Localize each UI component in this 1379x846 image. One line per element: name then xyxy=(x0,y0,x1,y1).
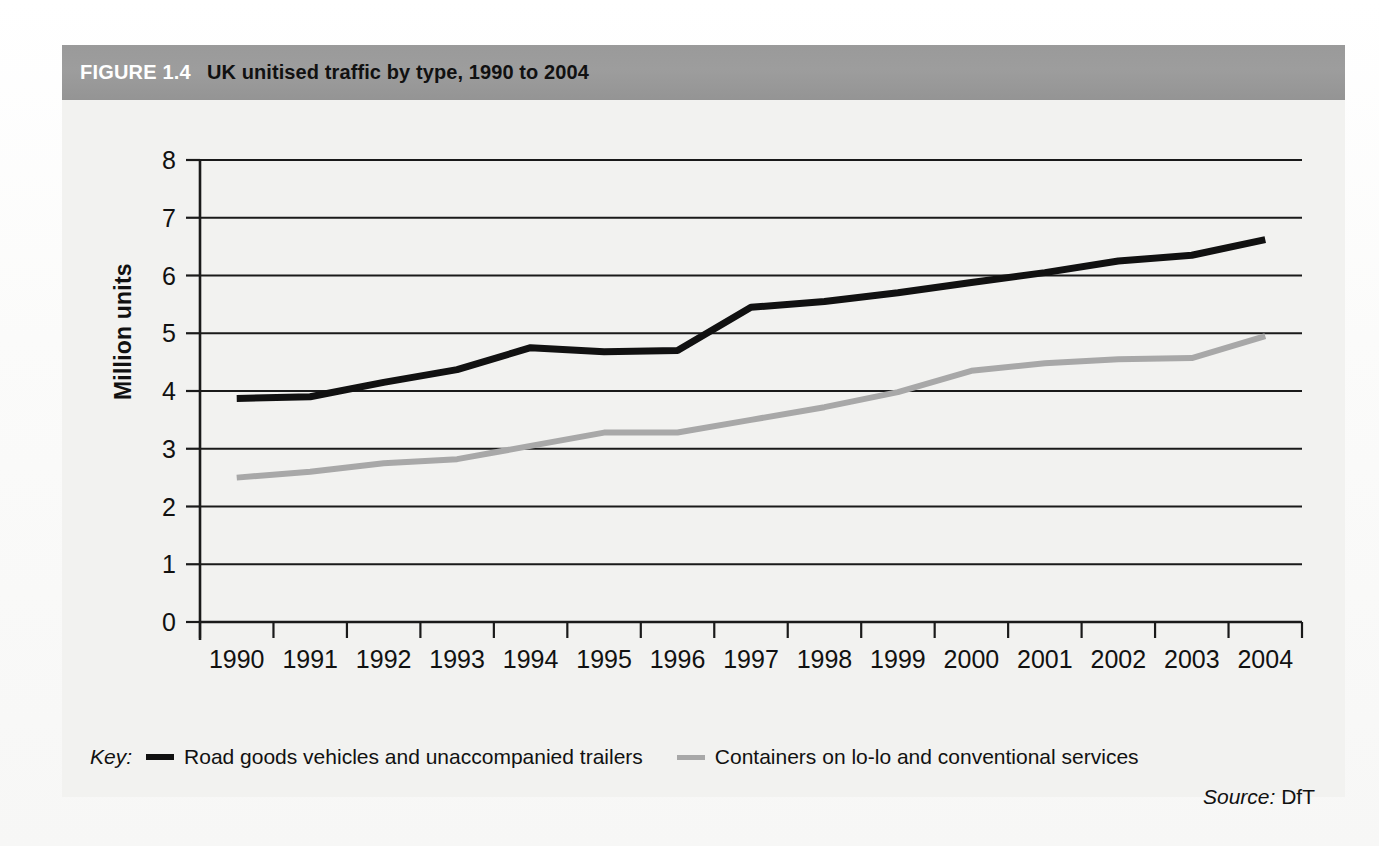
y-axis-tick-label: 7 xyxy=(162,204,176,232)
x-axis-tick-label: 1994 xyxy=(503,645,559,673)
line-chart-plot: 0123456781990199119921993199419951996199… xyxy=(62,100,1345,740)
legend-swatch-road-goods xyxy=(146,754,174,760)
source-label: Source: xyxy=(1203,785,1275,808)
source-value: DfT xyxy=(1281,785,1315,808)
series-line-road-goods xyxy=(237,240,1266,399)
source-note: Source: DfT xyxy=(1203,785,1315,809)
y-axis-tick-label: 2 xyxy=(162,493,176,521)
x-axis-tick-label: 2001 xyxy=(1017,645,1073,673)
y-axis-tick-label: 3 xyxy=(162,435,176,463)
legend-label-road-goods: Road goods vehicles and unaccompanied tr… xyxy=(184,745,643,769)
figure-container: FIGURE 1.4 UK unitised traffic by type, … xyxy=(62,45,1345,797)
x-axis-tick-label: 1999 xyxy=(870,645,926,673)
y-axis-tick-label: 4 xyxy=(162,377,176,405)
figure-number: FIGURE 1.4 xyxy=(80,61,191,84)
x-axis-tick-label: 1992 xyxy=(356,645,412,673)
x-axis-tick-label: 1997 xyxy=(723,645,779,673)
x-axis-tick-label: 1990 xyxy=(209,645,265,673)
key-label: Key: xyxy=(90,745,132,769)
x-axis-tick-label: 1995 xyxy=(576,645,632,673)
x-axis-tick-label: 2004 xyxy=(1237,645,1293,673)
figure-header-band: FIGURE 1.4 UK unitised traffic by type, … xyxy=(62,45,1345,100)
x-axis-tick-label: 1998 xyxy=(797,645,853,673)
x-axis-tick-label: 2003 xyxy=(1164,645,1220,673)
x-axis-tick-label: 2002 xyxy=(1091,645,1147,673)
figure-title: UK unitised traffic by type, 1990 to 200… xyxy=(207,61,589,84)
legend-swatch-containers xyxy=(677,755,705,760)
x-axis-tick-label: 1993 xyxy=(429,645,485,673)
x-axis-tick-label: 1996 xyxy=(650,645,706,673)
x-axis-tick-label: 2000 xyxy=(944,645,1000,673)
y-axis-tick-label: 6 xyxy=(162,262,176,290)
x-axis-tick-label: 1991 xyxy=(282,645,338,673)
y-axis-tick-label: 5 xyxy=(162,319,176,347)
chart-body: Million units 01234567819901991199219931… xyxy=(62,100,1345,740)
legend-label-containers: Containers on lo-lo and conventional ser… xyxy=(715,745,1139,769)
chart-key: Key: Road goods vehicles and unaccompani… xyxy=(62,745,1345,797)
y-axis-tick-label: 8 xyxy=(162,146,176,174)
series-line-containers xyxy=(237,336,1266,477)
y-axis-tick-label: 1 xyxy=(162,550,176,578)
y-axis-tick-label: 0 xyxy=(162,608,176,636)
